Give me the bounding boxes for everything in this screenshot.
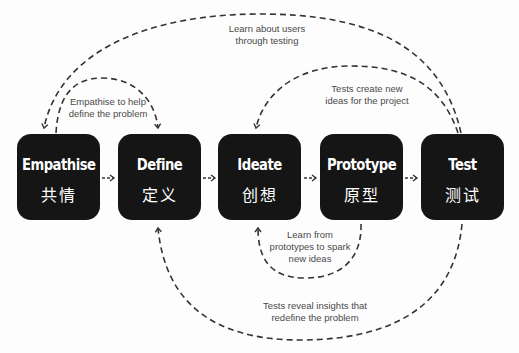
stage-label-zh: 测试 xyxy=(421,182,504,206)
note-learn-about-users: Learn about users through testing xyxy=(212,23,322,47)
stage-prototype: Prototype 原型 xyxy=(320,134,403,220)
note-line: define the problem xyxy=(63,108,153,120)
note-line: prototypes to spark xyxy=(262,241,358,253)
note-tests-create-ideas: Tests create new ideas for the project xyxy=(312,83,422,107)
stage-label-zh: 共情 xyxy=(17,182,100,206)
stage-label-zh: 定义 xyxy=(118,182,201,206)
stage-test: Test 测试 xyxy=(421,134,504,220)
note-line: redefine the problem xyxy=(250,312,380,324)
note-learn-from-prototypes: Learn from prototypes to spark new ideas xyxy=(262,229,358,265)
note-line: ideas for the project xyxy=(312,95,422,107)
note-line: through testing xyxy=(212,35,322,47)
stage-ideate: Ideate 创想 xyxy=(218,134,301,220)
design-thinking-diagram: Empathise 共情 Define 定义 Ideate 创想 Prototy… xyxy=(0,0,519,353)
note-tests-reveal-insights: Tests reveal insights that redefine the … xyxy=(250,300,380,324)
stage-label-en: Define xyxy=(123,156,196,174)
note-empathise-define: Empathise to help define the problem xyxy=(63,96,153,120)
note-line: new ideas xyxy=(262,253,358,265)
note-line: Empathise to help xyxy=(63,96,153,108)
note-line: Learn about users xyxy=(212,23,322,35)
stage-label-zh: 原型 xyxy=(320,182,403,206)
stage-label-en: Prototype xyxy=(325,156,398,174)
note-line: Learn from xyxy=(262,229,358,241)
stage-label-zh: 创想 xyxy=(218,182,301,206)
note-line: Tests create new xyxy=(312,83,422,95)
stage-empathise: Empathise 共情 xyxy=(17,134,100,220)
stage-label-en: Ideate xyxy=(223,156,296,174)
stage-define: Define 定义 xyxy=(118,134,201,220)
note-line: Tests reveal insights that xyxy=(250,300,380,312)
stage-label-en: Empathise xyxy=(22,156,95,174)
stage-label-en: Test xyxy=(426,156,499,174)
